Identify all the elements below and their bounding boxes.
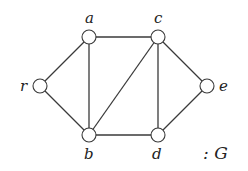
node-label-b: b (84, 145, 94, 163)
edge-c-e (158, 37, 207, 86)
edge-d-e (158, 86, 207, 135)
node-c (151, 30, 165, 44)
node-label-d: d (152, 145, 162, 163)
graph-diagram: racebd : G (0, 0, 248, 171)
node-label-c: c (154, 9, 163, 27)
node-r (33, 79, 47, 93)
graph-edges (40, 37, 207, 135)
edge-c-b (89, 37, 158, 135)
node-d (151, 128, 165, 142)
edge-r-b (40, 86, 89, 135)
node-b (82, 128, 96, 142)
node-e (200, 79, 214, 93)
node-label-e: e (219, 77, 228, 95)
edge-r-a (40, 37, 89, 86)
graph-caption: : G (203, 143, 228, 163)
node-label-a: a (85, 9, 94, 27)
node-label-r: r (20, 77, 28, 95)
node-a (82, 30, 96, 44)
